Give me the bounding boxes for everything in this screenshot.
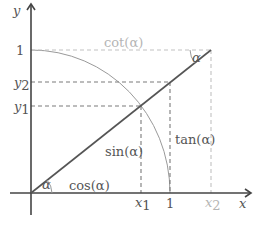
cos-label: cos(α) [69,178,110,193]
y-tick-y2: y2 [13,75,30,93]
cot-label: cot(α) [104,35,143,50]
tan-label: tan(α) [175,132,215,147]
y-tick-1: 1 [16,43,24,58]
x-tick-x2: x2 [205,195,221,213]
sin-label: sin(α) [105,144,143,159]
angle-label-top: α [192,50,201,65]
angle-label-origin: α [42,177,51,192]
x-tick-x1: x1 [135,195,151,213]
y-axis-label: y [12,3,21,18]
unit-circle-arc [31,50,170,193]
x-tick-1: 1 [166,196,174,211]
trig-diagram: y x 1 y2 y1 x1 1 x2 cot(α) tan(α) sin(α)… [0,0,263,226]
x-axis-label: x [239,196,247,211]
angle-ray [31,50,211,193]
y-tick-y1: y1 [13,99,30,117]
